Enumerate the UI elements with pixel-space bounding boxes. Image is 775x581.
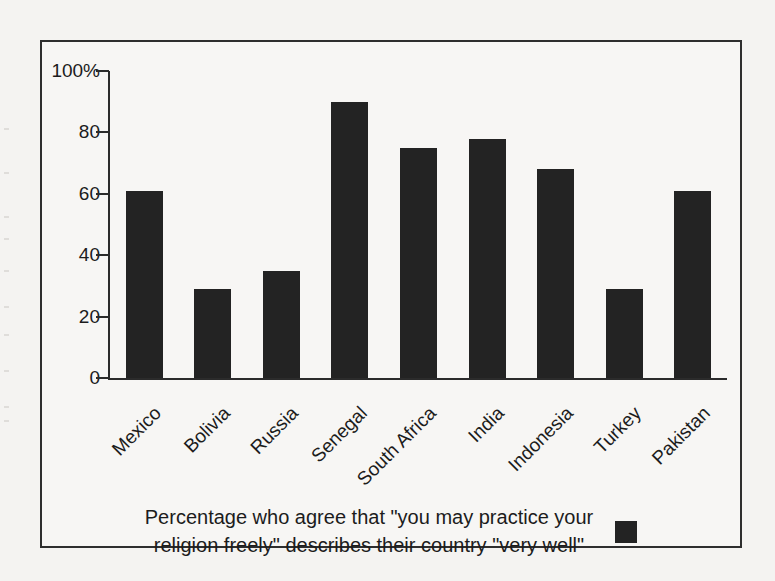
y-tick-mark-20 [96, 316, 109, 318]
bar-pakistan [674, 191, 711, 378]
x-label-text: Mexico [108, 402, 166, 460]
legend-label-line2: religion freely" describes their country… [145, 532, 593, 560]
scan-artifacts [4, 120, 18, 450]
bar-mexico [126, 191, 163, 378]
legend-label: Percentage who agree that "you may pract… [145, 504, 593, 559]
legend-label-line1: Percentage who agree that "you may pract… [145, 504, 593, 532]
y-tick-mark-60 [96, 193, 109, 195]
y-tick-mark-80 [96, 131, 109, 133]
x-label-text: India [464, 402, 509, 447]
y-tick-mark-0 [96, 377, 109, 379]
chart-legend: Percentage who agree that "you may pract… [42, 504, 740, 559]
x-label-india: India [501, 381, 546, 426]
legend-color-swatch [615, 521, 637, 543]
bar-chart: 020406080100% MexicoBoliviaRussiaSenegal… [42, 42, 744, 402]
bar-senegal [331, 102, 368, 378]
bar-russia [263, 271, 300, 378]
y-tick-mark-100 [96, 70, 109, 72]
plot-area [110, 71, 727, 378]
bar-bolivia [194, 289, 231, 378]
bar-south-africa [400, 148, 437, 378]
figure-frame: 020406080100% MexicoBoliviaRussiaSenegal… [40, 40, 742, 548]
y-tick-mark-40 [96, 254, 109, 256]
y-tick-label-100: 100% [51, 60, 100, 82]
bar-series [110, 71, 727, 378]
x-axis-category-labels: MexicoBoliviaRussiaSenegalSouth AfricaIn… [110, 410, 727, 506]
bar-indonesia [537, 169, 574, 378]
y-axis-tick-labels: 020406080100% [42, 42, 104, 402]
